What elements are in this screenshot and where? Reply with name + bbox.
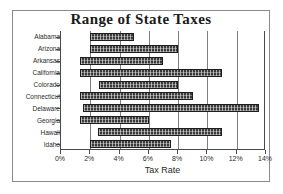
x-axis-title: Tax Rate	[60, 165, 265, 175]
y-tick-california	[56, 73, 60, 74]
bar-row	[61, 126, 264, 138]
x-tick-4pct	[119, 150, 120, 154]
x-axis-label-12pct: 12%	[221, 155, 251, 162]
y-tick-alabama	[56, 37, 60, 38]
x-tick-12pct	[236, 150, 237, 154]
y-axis-label-colorado: Colorado	[12, 81, 60, 88]
x-tick-14pct	[265, 150, 266, 154]
bar-idaho[interactable]	[90, 140, 171, 148]
bar-alabama[interactable]	[90, 33, 134, 41]
y-axis-label-arizona: Arizona	[12, 45, 60, 52]
bar-row	[61, 102, 264, 114]
y-axis-label-alabama: Alabama	[12, 33, 60, 40]
y-tick-arizona	[56, 49, 60, 50]
x-axis-label-2pct: 2%	[74, 155, 104, 162]
bar-delaware[interactable]	[83, 104, 259, 112]
bar-row	[61, 43, 264, 55]
bar-row	[61, 79, 264, 91]
y-axis-labels: AlabamaArizonaArkansasCaliforniaColorado…	[12, 31, 60, 150]
bar-series	[61, 31, 264, 149]
y-tick-arkansas	[56, 61, 60, 62]
y-tick-connecticut	[56, 96, 60, 97]
y-tick-georgia	[56, 120, 60, 121]
y-axis-label-arkansas: Arkansas	[12, 57, 60, 64]
bar-connecticut[interactable]	[80, 92, 193, 100]
chart-title: Range of State Taxes	[12, 11, 270, 28]
x-tick-6pct	[148, 150, 149, 154]
bar-row	[61, 138, 264, 150]
x-axis-label-10pct: 10%	[191, 155, 221, 162]
bar-arkansas[interactable]	[80, 57, 163, 65]
x-tick-10pct	[206, 150, 207, 154]
bar-row	[61, 67, 264, 79]
chart-screenshot: Range of State Taxes AlabamaArizonaArkan…	[0, 0, 283, 194]
bar-hawaii[interactable]	[98, 128, 222, 136]
x-tick-2pct	[89, 150, 90, 154]
x-axis-label-0pct: 0%	[45, 155, 75, 162]
y-tick-hawaii	[56, 132, 60, 133]
x-axis-label-8pct: 8%	[162, 155, 192, 162]
x-tick-0pct	[60, 150, 61, 154]
bar-row	[61, 55, 264, 67]
bar-row	[61, 114, 264, 126]
y-tick-colorado	[56, 85, 60, 86]
bar-row	[61, 91, 264, 103]
plot-area	[60, 31, 265, 150]
bar-california[interactable]	[80, 69, 222, 77]
bar-colorado[interactable]	[99, 81, 178, 89]
y-axis-label-idaho: Idaho	[12, 141, 60, 148]
bar-row	[61, 31, 264, 43]
y-axis-label-connecticut: Connecticut	[12, 93, 60, 100]
y-axis-label-georgia: Georgia	[12, 117, 60, 124]
bar-georgia[interactable]	[80, 116, 149, 124]
bar-arizona[interactable]	[90, 45, 178, 53]
x-axis-label-14pct: 14%	[250, 155, 280, 162]
y-axis-label-california: California	[12, 69, 60, 76]
x-tick-8pct	[177, 150, 178, 154]
y-tick-delaware	[56, 108, 60, 109]
x-axis-label-6pct: 6%	[133, 155, 163, 162]
y-axis-label-delaware: Delaware	[12, 105, 60, 112]
y-tick-idaho	[56, 144, 60, 145]
x-axis-label-4pct: 4%	[104, 155, 134, 162]
y-axis-label-hawaii: Hawaii	[12, 129, 60, 136]
